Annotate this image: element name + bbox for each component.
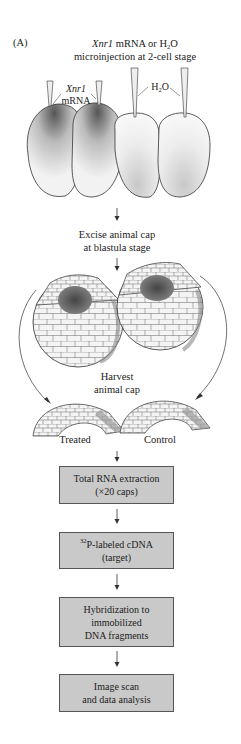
box-line: (×20 caps) [95, 485, 138, 498]
box-line: immobilized [91, 616, 142, 629]
h2o-o: O [162, 81, 169, 92]
animal-cap-control [120, 401, 210, 433]
box-line: Hybridization to [84, 603, 150, 616]
arrow-down-icon [115, 208, 120, 221]
step-harvest-line1: Harvest [77, 370, 157, 383]
title-line1: mRNA or H [113, 38, 167, 49]
box-line: Image scan [94, 680, 139, 693]
step-harvest-label: Harvest animal cap [77, 370, 157, 396]
step-harvest-line2: animal cap [77, 383, 157, 396]
xnr1-mrna-label: Xnr1 mRNA [56, 83, 96, 107]
step-excise-line1: Excise animal cap [57, 228, 177, 241]
step-box-image-scan: Image scan and data analysis [59, 674, 174, 712]
step-box-labeled-cdna: 32P-labeled cDNA (target) [59, 532, 174, 569]
box-line: (target) [102, 551, 131, 564]
treated-label: Treated [50, 434, 100, 446]
xnr1-label: Xnr1 [66, 83, 86, 94]
control-label: Control [135, 434, 185, 446]
h2o-label: H2O [146, 81, 174, 93]
figure-title: Xnr1 mRNA or H2O microinjection at 2-cel… [40, 37, 230, 63]
blastula-treated [33, 275, 123, 367]
box-line: and data analysis [82, 693, 150, 706]
arrow-down-icon [115, 258, 120, 271]
box-line: Total RNA extraction [74, 472, 160, 485]
step-box-rna-extraction: Total RNA extraction (×20 caps) [59, 466, 174, 504]
arrow-down-icon [115, 651, 120, 667]
panel-label: (A) [13, 37, 28, 48]
title-line1-end: O [170, 38, 178, 49]
arrow-down-icon [115, 509, 120, 524]
arrow-down-icon [115, 574, 120, 590]
step-excise-label: Excise animal cap at blastula stage [57, 228, 177, 254]
animal-cap-treated [33, 404, 124, 436]
mrna-label: mRNA [56, 95, 96, 107]
blastula-control [117, 262, 203, 350]
box-line: P-labeled cDNA [87, 539, 153, 550]
step-box-hybridization: Hybridization to immobilized DNA fragmen… [59, 597, 174, 647]
step-excise-line2: at blastula stage [57, 241, 177, 254]
arrow-down-icon [115, 451, 120, 462]
title-gene: Xnr1 [92, 38, 113, 49]
title-line2: microinjection at 2-cell stage [40, 50, 230, 63]
box-line: DNA fragments [85, 629, 149, 642]
